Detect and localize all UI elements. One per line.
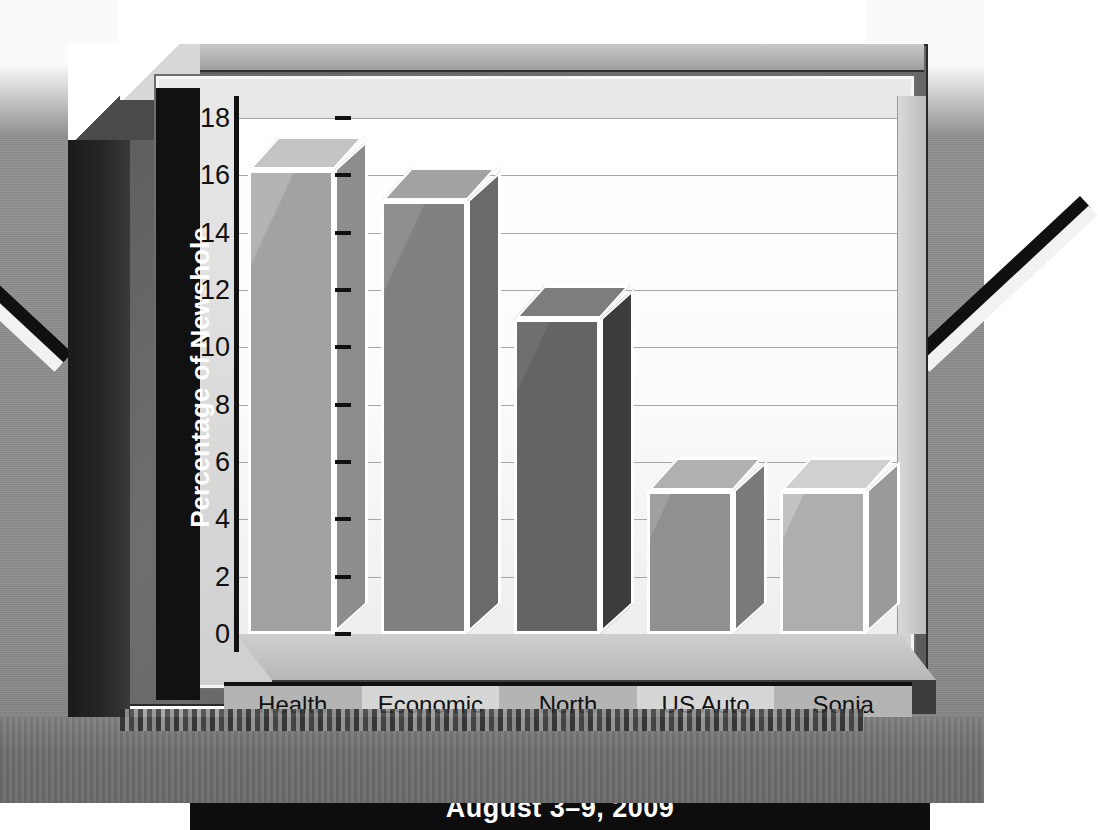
bar-1 [248,136,368,634]
y-tick-mark [335,173,351,177]
plot-floor [236,634,936,680]
bar-front-face [647,491,733,634]
bar-side-face [733,460,767,634]
y-tick-mark [335,116,351,120]
y-tick-mark [335,632,351,636]
y-tick-label: 18 [174,105,230,132]
bar-front-face [780,491,866,634]
y-tick-label: 14 [174,219,230,246]
y-tick-mark [335,460,351,464]
bar-4 [647,457,767,634]
y-tick-label: 0 [174,621,230,648]
bar-side-face [600,288,634,634]
bar-2 [381,167,501,634]
y-tick-label: 10 [174,334,230,361]
frame-top-bevel [128,44,924,72]
y-tick-label: 2 [174,563,230,590]
y-axis-line [234,96,239,652]
bar-front-face [514,319,600,634]
y-tick-label: 6 [174,449,230,476]
y-axis: 181614121086420 [164,110,238,676]
y-tick-label: 8 [174,391,230,418]
frame-left-bevel [68,58,130,748]
bottom-noise-strip [120,709,864,731]
y-tick-mark [335,288,351,292]
y-tick-label: 12 [174,277,230,304]
y-tick-mark [335,575,351,579]
y-tick-mark [335,345,351,349]
y-tick-mark [335,517,351,521]
y-tick-label: 16 [174,162,230,189]
chart-3d-frame: Percentage of Newshole 181614121086420 H… [68,44,926,744]
bar-series [236,118,900,634]
plot-right-wall [897,96,926,634]
y-tick-mark [335,231,351,235]
bar-front-face [248,170,334,634]
bar-side-face [334,139,368,634]
bar-side-face [467,171,501,634]
y-tick-mark [335,403,351,407]
y-tick-label: 4 [174,506,230,533]
bar-3 [514,285,634,634]
bar-front-face [381,201,467,634]
bar-side-face [866,460,900,634]
top-cropped-title [0,0,984,6]
bar-5 [780,457,900,634]
